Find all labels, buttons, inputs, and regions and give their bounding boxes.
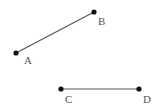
label-a: A bbox=[24, 54, 32, 66]
label-b: B bbox=[98, 15, 105, 27]
geometry-diagram: A B C D bbox=[0, 0, 155, 112]
point-a bbox=[13, 50, 18, 55]
segment-ab bbox=[16, 12, 94, 53]
point-d bbox=[136, 86, 141, 91]
label-d: D bbox=[143, 93, 151, 105]
point-b bbox=[91, 9, 96, 14]
point-c bbox=[58, 86, 63, 91]
label-c: C bbox=[65, 93, 72, 105]
